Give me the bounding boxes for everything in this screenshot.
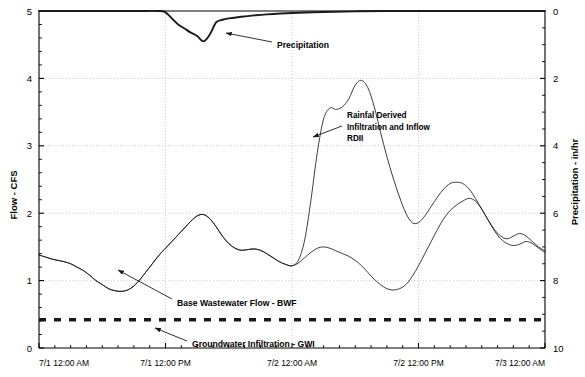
x-tick-label: 7/1 12:00 PM <box>140 358 191 368</box>
y-tick-label: 4 <box>27 73 32 84</box>
y2-axis-title: Precipitation - in/hr <box>569 138 580 225</box>
y2-tick-label: 4 <box>553 140 558 151</box>
x-tick-label: 7/3 12:00 AM <box>495 358 545 368</box>
y-tick-label: 2 <box>27 208 32 219</box>
annotation-label-rdii-line3: RDII <box>347 134 363 143</box>
chart-canvas: 01234502468107/1 12:00 AM7/1 12:00 PM7/2… <box>0 0 585 377</box>
annotation-label-rdii-line2: Infiltration and Inflow <box>347 123 430 132</box>
y2-tick-label: 2 <box>553 73 558 84</box>
y-axis-title: Flow - CFS <box>8 170 19 219</box>
x-tick-label: 7/1 12:00 AM <box>39 358 89 368</box>
y2-tick-label: 6 <box>553 208 558 219</box>
y-tick-label: 5 <box>27 6 32 17</box>
x-tick-label: 7/2 12:00 AM <box>267 358 317 368</box>
x-tick-label: 7/2 12:00 PM <box>393 358 444 368</box>
annotation-label-gwi: Groundwater Infiltration - GWI <box>192 339 315 349</box>
y2-tick-label: 0 <box>553 6 558 17</box>
y2-tick-label: 10 <box>553 343 564 354</box>
y2-tick-label: 8 <box>553 275 558 286</box>
annotation-label-bwf: Base Wastewater Flow - BWF <box>177 298 297 308</box>
rdii-flow-chart: 01234502468107/1 12:00 AM7/1 12:00 PM7/2… <box>0 0 585 377</box>
y-tick-label: 1 <box>27 275 32 286</box>
annotation-label-precipitation: Precipitation <box>277 40 329 50</box>
annotation-label-rdii-line1: Rainfal Derived <box>347 111 407 120</box>
y-tick-label: 0 <box>27 343 32 354</box>
y-tick-label: 3 <box>27 140 32 151</box>
